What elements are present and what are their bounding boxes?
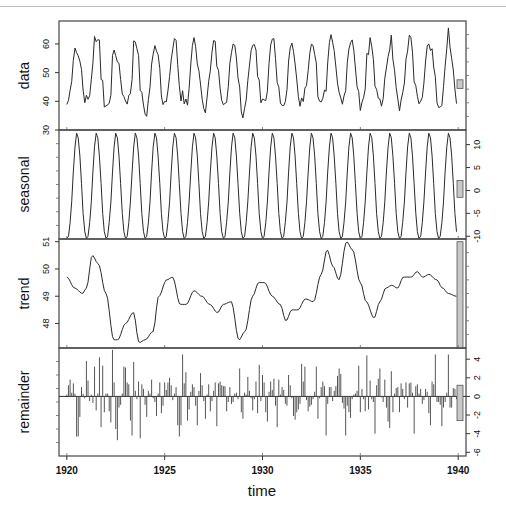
y-tick-label: 4 xyxy=(472,357,482,362)
y-tick-label: 50 xyxy=(41,264,51,274)
panels: 30405060data-10-50510seasonal48495051tre… xyxy=(16,21,483,456)
trend-line xyxy=(67,242,457,342)
range-bar-data xyxy=(457,80,463,89)
panel-label-seasonal: seasonal xyxy=(16,156,32,212)
x-axis-label: time xyxy=(248,482,276,499)
panel-label-data: data xyxy=(16,62,32,89)
x-tick-label: 1935 xyxy=(349,465,372,476)
x-tick-label: 1920 xyxy=(56,465,79,476)
y-tick-label: 2 xyxy=(472,375,482,380)
y-tick-label: -5 xyxy=(472,209,482,217)
panel-remainder: -6-4-2024remainder xyxy=(16,348,483,456)
y-tick-label: 51 xyxy=(41,237,51,247)
panel-trend: 48495051trend xyxy=(16,237,469,348)
data-line xyxy=(67,28,457,118)
y-tick-label: 10 xyxy=(472,140,482,150)
y-tick-label: 49 xyxy=(41,291,51,301)
x-tick-label: 1925 xyxy=(154,465,177,476)
y-tick-label: -6 xyxy=(472,448,482,456)
y-tick-label: 0 xyxy=(472,394,482,399)
y-tick-label: 0 xyxy=(472,188,482,193)
panel-label-remainder: remainder xyxy=(16,370,32,433)
panel-frame xyxy=(59,239,466,348)
panel-data: 30405060data xyxy=(16,21,469,135)
y-tick-label: 40 xyxy=(41,96,51,106)
y-tick-label: 50 xyxy=(41,68,51,78)
range-bar-remainder xyxy=(457,385,463,420)
y-tick-label: -10 xyxy=(472,230,482,243)
y-tick-label: 5 xyxy=(472,165,482,170)
x-axis: 19201925193019351940 xyxy=(56,456,470,476)
stl-decomposition-chart: 30405060data-10-50510seasonal48495051tre… xyxy=(0,0,506,512)
range-bar-trend xyxy=(457,242,463,348)
y-tick-label: 30 xyxy=(41,125,51,135)
y-tick-label: -4 xyxy=(472,430,482,438)
x-tick-label: 1930 xyxy=(251,465,274,476)
seasonal-line xyxy=(67,133,457,238)
panel-seasonal: -10-50510seasonal xyxy=(16,130,483,243)
panel-label-trend: trend xyxy=(16,278,32,310)
y-tick-label: -2 xyxy=(472,411,482,419)
y-tick-label: 48 xyxy=(41,318,51,328)
range-bar-seasonal xyxy=(457,180,463,197)
panel-frame xyxy=(59,348,466,456)
y-tick-label: 60 xyxy=(41,39,51,49)
x-tick-label: 1940 xyxy=(447,465,470,476)
